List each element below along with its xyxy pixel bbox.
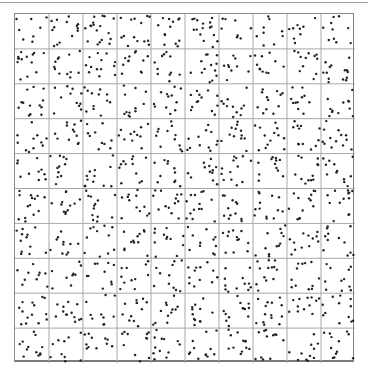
data-point [93,207,95,209]
data-point [245,87,247,89]
data-point [283,137,285,139]
data-point [87,275,89,277]
data-point [89,135,91,137]
data-point [197,358,199,360]
data-point [323,143,325,145]
data-point [216,276,218,278]
data-point [64,356,66,358]
data-point [239,302,241,304]
data-point [21,301,23,303]
data-point [136,134,138,136]
data-point [92,21,94,23]
data-point [98,93,100,95]
data-point [58,72,60,74]
data-point [325,289,327,291]
data-point [234,57,236,59]
data-point [134,110,136,112]
data-point [54,68,56,70]
data-point [101,122,103,124]
data-point [46,285,48,287]
data-point [83,86,85,88]
data-point [348,316,350,318]
data-point [177,45,179,47]
data-point [145,157,147,159]
data-point [265,108,267,110]
data-point [298,298,300,300]
data-point [148,16,150,18]
data-point [220,100,222,102]
data-point [199,33,201,35]
data-point [155,135,157,137]
data-point [257,298,259,300]
data-point [53,66,55,68]
data-point [111,226,113,228]
data-point [56,19,58,21]
data-point [187,266,189,268]
data-point [148,212,150,214]
data-point [145,91,147,93]
data-point [91,214,93,216]
data-point [135,206,137,208]
data-point [188,282,190,284]
data-point [85,64,87,66]
data-point [277,105,279,107]
data-point [123,344,125,346]
data-point [86,347,88,349]
data-point [281,210,283,212]
data-point [300,178,302,180]
data-point [69,76,71,78]
data-point [18,218,20,220]
data-point [338,322,340,324]
data-point [227,291,229,293]
data-point [143,206,145,208]
data-point [294,173,296,175]
data-point [302,143,304,145]
data-point [32,147,34,149]
data-point [227,235,229,237]
data-point [135,50,137,52]
data-point [38,179,40,181]
data-point [54,61,56,63]
data-point [168,274,170,276]
data-point [168,80,170,82]
data-point [228,316,230,318]
data-point [120,17,122,19]
data-point [66,21,68,23]
data-point [268,52,270,54]
data-point [322,249,324,251]
data-point [175,101,177,103]
data-point [257,289,259,291]
data-point [318,127,320,129]
data-point [21,284,23,286]
data-point [121,217,123,219]
data-point [176,255,178,257]
data-point [308,304,310,306]
data-point [40,114,42,116]
data-point [295,285,297,287]
data-point [297,197,299,199]
data-point [174,308,176,310]
data-point [31,314,33,316]
data-point [337,129,339,131]
data-point [262,44,264,46]
data-point [198,208,200,210]
data-point [207,89,209,91]
data-point [205,331,207,333]
data-point [113,264,115,266]
data-point [170,311,172,313]
data-point [134,354,136,356]
data-point [128,319,130,321]
data-point [310,344,312,346]
data-point [327,225,329,227]
data-point [62,243,64,245]
data-point [87,195,89,197]
data-point [102,316,104,318]
data-point [228,218,230,220]
data-point [211,110,213,112]
data-point [95,347,97,349]
data-point [94,263,96,265]
data-point [192,340,194,342]
data-point [58,41,60,43]
data-point [108,43,110,45]
data-point [107,32,109,34]
